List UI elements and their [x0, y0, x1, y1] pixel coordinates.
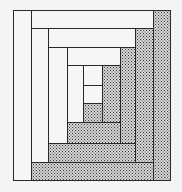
log-ring1-top: [83, 65, 103, 86]
log-center-square: [83, 85, 103, 104]
log-ring4-top: [31, 10, 154, 29]
log-ring1-bottom: [83, 103, 103, 123]
log-ring3-bottom: [48, 143, 136, 163]
log-ring1-right: [102, 65, 121, 123]
log-cabin-quilt-block: [0, 0, 182, 192]
log-ring3-right: [135, 28, 154, 163]
log-ring2-right: [120, 47, 136, 144]
log-ring4-bottom: [31, 162, 154, 181]
log-ring3-top: [48, 28, 136, 48]
log-ring3-left: [31, 28, 49, 163]
log-ring1-left: [67, 65, 84, 123]
log-ring2-bottom: [67, 122, 121, 144]
log-ring2-top: [67, 47, 121, 66]
log-ring2-left: [48, 47, 68, 144]
log-ring4-left: [13, 10, 32, 181]
log-ring4-right: [153, 10, 171, 181]
